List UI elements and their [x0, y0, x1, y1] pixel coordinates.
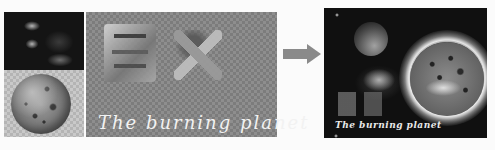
composited-result-image: The burning planet	[324, 8, 487, 138]
text-layer-caption: The burning planet	[98, 112, 309, 133]
planet-icon	[11, 74, 71, 134]
burning-planet-icon	[410, 42, 484, 116]
nebula-source-image	[4, 12, 84, 70]
stone-glyph-2	[174, 30, 222, 80]
moon-icon	[354, 22, 388, 56]
stone-glyph-1	[104, 24, 156, 82]
result-caption: The burning planet	[335, 120, 442, 130]
planet-source-image	[4, 70, 84, 137]
right-arrow-head-icon	[307, 44, 321, 64]
text-layer-image: The burning planet	[86, 12, 277, 137]
result-glyphs	[338, 92, 384, 116]
right-arrow-icon	[283, 49, 308, 59]
